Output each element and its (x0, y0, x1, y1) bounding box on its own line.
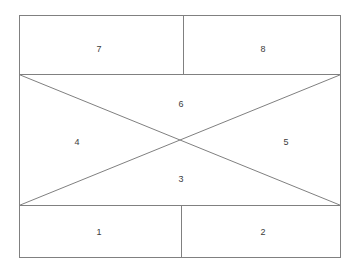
region-label-1: 1 (96, 228, 101, 237)
region-label-6: 6 (178, 100, 183, 109)
outer-rectangle (20, 16, 341, 258)
region-label-8: 8 (260, 45, 265, 54)
region-label-4: 4 (74, 138, 79, 147)
region-label-5: 5 (283, 138, 288, 147)
region-label-3: 3 (178, 175, 183, 184)
diagram-vector-layer (0, 0, 361, 271)
diagram-canvas: 7 8 6 4 5 3 1 2 (0, 0, 361, 271)
region-label-7: 7 (96, 45, 101, 54)
region-label-2: 2 (260, 228, 265, 237)
